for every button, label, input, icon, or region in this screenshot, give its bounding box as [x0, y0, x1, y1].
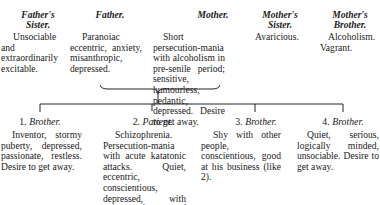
mothers-sister-description: Avaricious. — [255, 32, 315, 43]
child-4-description: Quiet, serious, logically minded, unsoci… — [297, 130, 379, 172]
child-3-number: 3. — [235, 116, 242, 127]
child-4-heading: 4. Brother. — [312, 116, 374, 127]
mothers-sister-heading: Mother's Sister. — [258, 10, 302, 30]
fathers-sister-heading: Father's Sister. — [10, 10, 66, 30]
mother-heading: Mother. — [178, 10, 248, 20]
child-4-number: 4. — [322, 116, 329, 127]
child-1-heading: 1. Brother. — [10, 116, 70, 127]
child-1-number: 1. — [19, 116, 26, 127]
mothers-brother-description: Alcoholism. Vagrant. — [320, 32, 380, 53]
child-2-heading: 2. Patient. — [120, 116, 186, 127]
child-3-heading: 3. Brother. — [225, 116, 287, 127]
child-3-relation: Brother. — [245, 116, 276, 127]
child-1-relation: Brother. — [29, 116, 60, 127]
fathers-sister-description: Unsociable and extraordinarily excitable… — [1, 32, 57, 74]
child-1-description: Inventor, stormy puberty, depressed, pas… — [1, 130, 82, 172]
child-3-description: Shy with other people, conscientious, go… — [201, 130, 281, 183]
father-heading: Father. — [80, 10, 140, 20]
child-2-number: 2. — [133, 116, 140, 127]
child-2-description: Schizophrenia. Persecution-mania with ac… — [103, 130, 186, 205]
mothers-brother-heading: Mother's Brother. — [326, 10, 374, 30]
mother-description: Short persecution-mania with alcoholism … — [153, 32, 225, 127]
child-2-relation: Patient. — [143, 116, 174, 127]
child-4-relation: Brother. — [332, 116, 363, 127]
father-description: Paranoiac eccentric, anxiety, misanthrop… — [70, 32, 142, 74]
